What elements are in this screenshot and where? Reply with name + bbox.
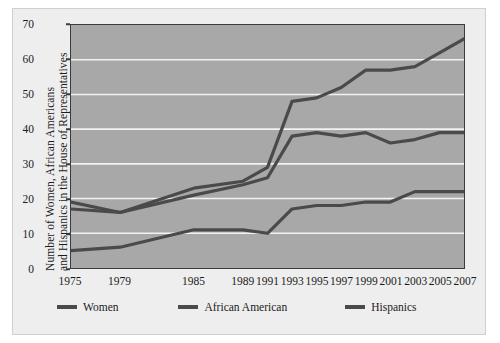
plot-area — [70, 24, 465, 269]
y-tick-label: 40 — [0, 123, 34, 135]
series-line-hispanics — [71, 192, 464, 251]
y-tick-label: 20 — [0, 193, 34, 205]
x-tick-label: 1975 — [59, 275, 82, 287]
x-tick-label: 1997 — [330, 275, 353, 287]
x-tick-label: 1985 — [182, 275, 205, 287]
x-tick-label: 2001 — [379, 275, 402, 287]
y-tick-label: 50 — [0, 88, 34, 100]
y-tick-label: 70 — [0, 18, 34, 30]
x-tick-label: 1991 — [256, 275, 279, 287]
legend-item-hispanics[interactable]: Hispanics — [345, 301, 416, 313]
x-tick-label: 1993 — [281, 275, 304, 287]
chart-legend: WomenAfrican AmericanHispanics — [57, 301, 417, 313]
y-axis-title-line-1: Number of Women, African Americans — [44, 87, 56, 271]
y-axis-title-line-2: and Hispanics in the House of Representa… — [57, 53, 69, 271]
legend-swatch-icon — [345, 305, 365, 309]
y-tick-label: 0 — [0, 263, 34, 275]
x-tick-label: 1989 — [231, 275, 254, 287]
x-tick-label: 2005 — [429, 275, 452, 287]
chart-figure: Number of Women, African Americans and H… — [12, 8, 486, 335]
y-tick-label: 10 — [0, 228, 34, 240]
x-tick-label: 2003 — [404, 275, 427, 287]
y-tick-label: 60 — [0, 53, 34, 65]
series-line-women — [71, 39, 464, 213]
legend-label: Women — [83, 301, 118, 313]
series-line-african-american — [71, 133, 464, 213]
x-tick-label: 1995 — [305, 275, 328, 287]
x-tick-label: 1979 — [108, 275, 131, 287]
legend-label: African American — [204, 301, 287, 313]
data-series-lines — [71, 25, 464, 268]
legend-swatch-icon — [178, 305, 198, 309]
legend-item-african-american[interactable]: African American — [178, 301, 287, 313]
x-tick-label: 1999 — [355, 275, 378, 287]
legend-item-women[interactable]: Women — [57, 301, 118, 313]
legend-label: Hispanics — [371, 301, 416, 313]
x-tick-label: 2007 — [454, 275, 477, 287]
legend-swatch-icon — [57, 305, 77, 309]
y-tick-label: 30 — [0, 158, 34, 170]
